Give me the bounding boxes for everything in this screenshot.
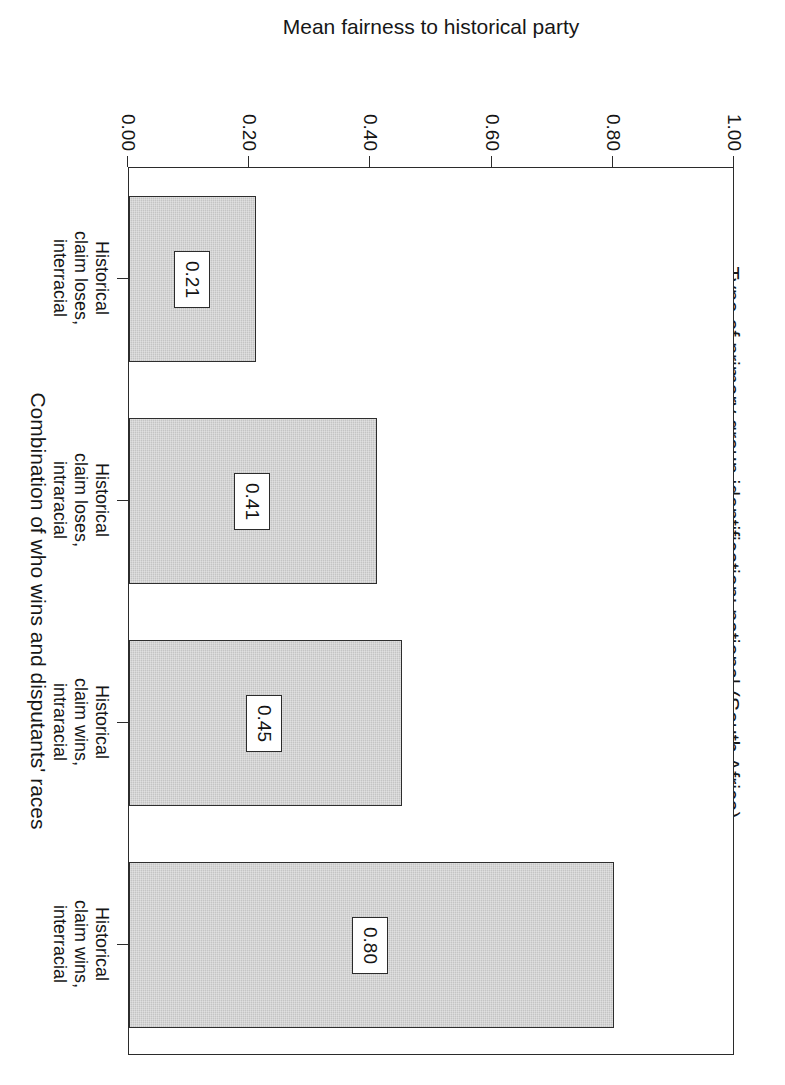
category-axis-tick-label: Historicalclaim loses,intraracial [48, 453, 112, 547]
category-label-line: interracial [48, 900, 69, 988]
category-axis-tick-mark [117, 722, 128, 723]
category-label-line: intraracial [48, 453, 69, 547]
value-axis-tick-mark [248, 156, 249, 167]
category-label-line: claim wins, [70, 900, 91, 988]
category-label-line: Historical [91, 678, 112, 766]
category-axis-tick-label: Historicalclaim wins,intraracial [48, 678, 112, 766]
category-axis-tick-label: Historicalclaim wins,interracial [48, 900, 112, 988]
bar-value-label: 0.80 [352, 917, 388, 974]
figure-rotation-wrapper: Type of primary group identification: na… [0, 0, 785, 1085]
value-axis-tick-label: 0.00 [117, 114, 139, 151]
value-axis-tick-label: 1.00 [723, 114, 745, 151]
category-label-line: Historical [91, 453, 112, 547]
category-axis-title: Combination of who wins and disputants' … [26, 167, 50, 1055]
category-axis-tick-mark [117, 500, 128, 501]
category-axis: Historicalclaim loses,interracialHistori… [0, 167, 128, 1055]
category-label-line: interracial [48, 231, 69, 325]
category-axis-tick-mark [117, 944, 128, 945]
value-axis-tick-mark [127, 156, 128, 167]
category-axis-tick-mark [117, 278, 128, 279]
bar-value-label: 0.21 [174, 251, 210, 308]
plot-inner: 0.210.410.450.80 [129, 168, 733, 1054]
category-label-line: claim loses, [70, 231, 91, 325]
value-axis-tick-mark [733, 156, 734, 167]
value-axis-tick-label: 0.20 [238, 114, 260, 151]
value-axis-tick-mark [491, 156, 492, 167]
category-label-line: claim loses, [70, 453, 91, 547]
category-label-line: Historical [91, 231, 112, 325]
category-label-line: claim wins, [70, 678, 91, 766]
plot-area: 0.210.410.450.80 [128, 167, 734, 1055]
value-axis-title-text: Mean fairness to historical party [283, 15, 579, 39]
value-axis-title: Mean fairness to historical party [128, 12, 734, 42]
bar-value-label: 0.41 [234, 473, 270, 530]
category-label-line: Historical [91, 900, 112, 988]
value-axis-tick-label: 0.80 [602, 114, 624, 151]
value-axis-tick-mark [612, 156, 613, 167]
bar-value-label: 0.45 [246, 695, 282, 752]
value-axis-tick-label: 0.40 [359, 114, 381, 151]
category-label-line: intraracial [48, 678, 69, 766]
value-axis-tick-mark [369, 156, 370, 167]
category-axis-tick-label: Historicalclaim loses,interracial [48, 231, 112, 325]
bar-chart-figure: Type of primary group identification: na… [0, 0, 785, 1085]
value-axis-tick-label: 0.60 [481, 114, 503, 151]
chart-page: Type of primary group identification: na… [0, 0, 785, 1085]
